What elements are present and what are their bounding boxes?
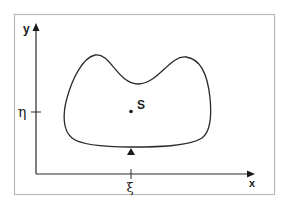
x-tick-label-xi: ξ — [127, 180, 134, 195]
diagram-canvas: y x η ξ S — [0, 0, 288, 208]
x-axis-label: x — [249, 177, 256, 189]
y-axis-label: y — [23, 22, 30, 36]
support-triangle-icon — [127, 148, 135, 155]
point-s-dot — [129, 110, 133, 114]
y-tick-label-eta: η — [18, 104, 26, 120]
y-axis-arrow-icon — [33, 23, 40, 31]
point-s-label: S — [137, 98, 145, 112]
